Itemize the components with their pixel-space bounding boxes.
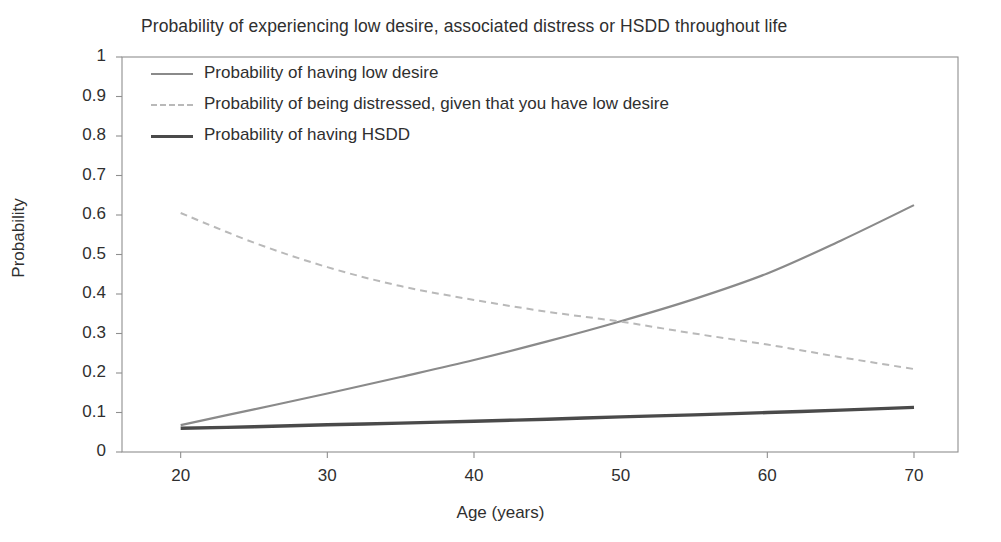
x-tick-label: 70 <box>884 466 944 486</box>
x-tick-label: 20 <box>151 466 211 486</box>
x-tick-label: 50 <box>591 466 651 486</box>
y-tick-label: 0.4 <box>60 283 106 303</box>
y-tick-label: 0.8 <box>60 125 106 145</box>
legend-label: Probability of having HSDD <box>204 125 410 145</box>
y-tick-label: 0.7 <box>60 165 106 185</box>
series-line-2 <box>181 213 914 369</box>
y-tick-label: 1 <box>60 46 106 66</box>
y-tick-label: 0.2 <box>60 362 106 382</box>
chart-legend: Probability of having low desireProbabil… <box>151 57 669 150</box>
chart-figure: Probability of experiencing low desire, … <box>0 0 1001 542</box>
series-line-3 <box>181 407 914 428</box>
series-line-1 <box>181 205 914 425</box>
legend-line-swatch <box>151 129 193 141</box>
legend-item: Probability of having low desire <box>151 57 669 88</box>
legend-item: Probability of having HSDD <box>151 119 669 150</box>
y-tick-label: 0 <box>60 441 106 461</box>
x-tick-label: 60 <box>737 466 797 486</box>
legend-label: Probability of having low desire <box>204 63 438 83</box>
legend-label: Probability of being distressed, given t… <box>204 94 669 114</box>
legend-line-swatch <box>151 98 193 110</box>
legend-item: Probability of being distressed, given t… <box>151 88 669 119</box>
y-tick-label: 0.1 <box>60 402 106 422</box>
y-tick-label: 0.9 <box>60 86 106 106</box>
y-tick-label: 0.6 <box>60 204 106 224</box>
y-tick-label: 0.3 <box>60 323 106 343</box>
x-tick-label: 30 <box>297 466 357 486</box>
y-tick-label: 0.5 <box>60 244 106 264</box>
x-tick-label: 40 <box>444 466 504 486</box>
legend-line-swatch <box>151 67 193 79</box>
